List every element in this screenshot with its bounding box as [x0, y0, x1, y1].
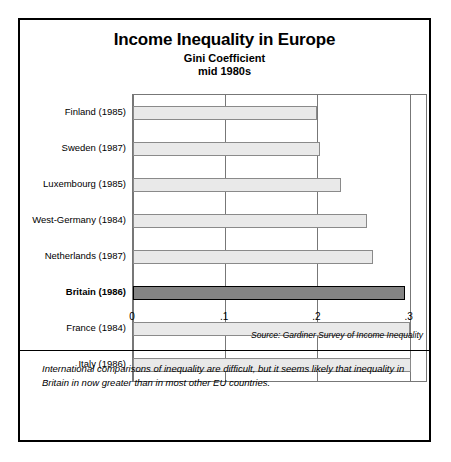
bar-row: [133, 167, 426, 203]
category-label: Luxembourg (1985): [43, 178, 126, 189]
bar-britain: [133, 286, 405, 300]
category-label: West-Germany (1984): [32, 214, 126, 225]
bar-west-germany: [133, 214, 367, 228]
bar-luxembourg: [133, 178, 341, 192]
bar-row: [133, 203, 426, 239]
x-axis: 0.1.2.3: [132, 310, 427, 326]
bar-row: [133, 275, 426, 311]
bar-row: [133, 131, 426, 167]
x-tick-label: .1: [220, 310, 228, 323]
category-label: Britain (1986): [66, 286, 126, 297]
footnote-divider: [20, 350, 429, 351]
footnote-annotation: International comparisons of inequality …: [42, 362, 411, 390]
chart-subtitle-period: mid 1980s: [20, 65, 429, 78]
bar-sweden: [133, 142, 320, 156]
bar-netherlands: [133, 250, 373, 264]
category-label: France (1984): [66, 322, 126, 333]
title-block: Income Inequality in Europe Gini Coeffic…: [20, 30, 429, 78]
category-label: Sweden (1987): [62, 142, 126, 153]
x-tick-label: .2: [312, 310, 320, 323]
bar-finland: [133, 106, 317, 120]
category-axis-labels: Finland (1985)Sweden (1987)Luxembourg (1…: [20, 94, 132, 382]
source-note: Source: Gardiner Survey of Income Inequa…: [251, 330, 423, 340]
bar-row: [133, 239, 426, 275]
category-label: Finland (1985): [65, 106, 126, 117]
category-label: Netherlands (1987): [45, 250, 126, 261]
bar-row: [133, 95, 426, 131]
chart-subtitle: Gini Coefficient: [20, 52, 429, 65]
chart-title: Income Inequality in Europe: [20, 30, 429, 50]
x-tick-label: 0: [129, 310, 135, 323]
chart-figure: Income Inequality in Europe Gini Coeffic…: [18, 18, 431, 442]
plot-wrapper: Finland (1985)Sweden (1987)Luxembourg (1…: [20, 94, 433, 384]
x-tick-label: .3: [404, 310, 412, 323]
